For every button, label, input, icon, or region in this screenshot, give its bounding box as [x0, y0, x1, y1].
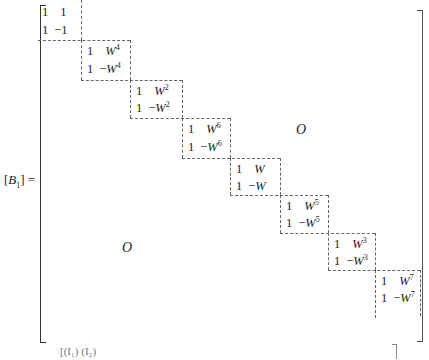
- block-divider-v: [230, 118, 231, 158]
- matrix-entry-row: 1−1: [42, 23, 68, 38]
- block-divider-v: [130, 40, 131, 80]
- matrix-entry-row: 1W6: [188, 122, 221, 137]
- block-divider-h: [230, 195, 328, 196]
- matrix-left-bracket: [40, 5, 46, 343]
- matrix-entry-row: 1W4: [87, 44, 120, 59]
- next-right-bracket: [392, 344, 397, 359]
- block-divider-v: [81, 0, 82, 40]
- matrix-entry-row: 1−W4: [87, 62, 121, 77]
- block-divider-h: [182, 158, 280, 159]
- matrix-label: [B1] =: [4, 172, 35, 190]
- matrix-entry-row: 1W2: [136, 84, 169, 99]
- block-divider-h: [130, 118, 230, 119]
- next-line-fragment: [(I₁) (I₂): [60, 345, 96, 357]
- matrix-entry-row: 1−W2: [136, 101, 170, 116]
- block-divider-v: [420, 270, 421, 316]
- matrix-entry-row: 1W5: [286, 199, 319, 214]
- block-divider-h: [81, 80, 182, 81]
- block-divider-v: [230, 158, 231, 195]
- block-divider-v: [280, 158, 281, 195]
- matrix-entry-row: 1−W7: [381, 291, 415, 306]
- block-divider-v: [81, 40, 82, 80]
- block-divider-v: [328, 195, 329, 233]
- matrix-entry-row: 1W3: [334, 237, 367, 252]
- matrix-entry-row: 1W7: [381, 274, 414, 289]
- matrix-entry-row: 11: [42, 5, 67, 20]
- zero-upper: O: [296, 122, 306, 138]
- close-bracket: ]: [20, 172, 24, 187]
- matrix-entry-row: 1−W3: [334, 254, 368, 269]
- block-divider-v: [182, 80, 183, 118]
- block-divider-v: [130, 80, 131, 118]
- block-divider-v: [375, 233, 376, 270]
- block-divider-h: [38, 40, 130, 41]
- block-divider-v: [375, 270, 376, 318]
- equals-sign: =: [28, 172, 35, 187]
- block-divider-v: [280, 195, 281, 233]
- block-divider-h: [328, 270, 420, 271]
- matrix-entry-row: 1−W: [236, 179, 266, 194]
- zero-lower: O: [122, 240, 132, 256]
- block-divider-v: [328, 233, 329, 270]
- matrix-entry-row: 1−W5: [286, 216, 320, 231]
- matrix-entry-row: 1W: [236, 162, 265, 177]
- block-divider-v: [182, 118, 183, 158]
- matrix-entry-row: 1−W6: [188, 140, 222, 155]
